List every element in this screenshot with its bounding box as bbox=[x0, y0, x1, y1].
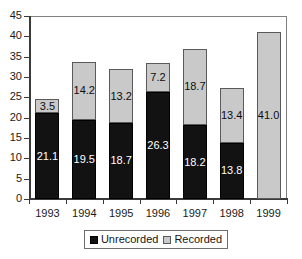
bar-segment-unrecorded[interactable]: 21.1 bbox=[35, 113, 59, 199]
legend-item-unrecorded[interactable]: Unrecorded bbox=[90, 234, 158, 245]
x-axis-label: 1998 bbox=[212, 207, 252, 219]
bars-layer: 21.13.519.514.218.713.226.37.218.218.713… bbox=[29, 16, 287, 199]
bar-value-label: 13.8 bbox=[221, 165, 242, 176]
bar-value-label: 26.3 bbox=[147, 140, 168, 151]
bar-value-label: 21.1 bbox=[37, 151, 58, 162]
x-axis-tick bbox=[287, 199, 288, 204]
x-axis-label: 1999 bbox=[249, 207, 289, 219]
x-axis-label: 1995 bbox=[101, 207, 141, 219]
y-axis-label: 35 bbox=[2, 51, 22, 62]
stacked-bar-chart: 051015202530354045 21.13.519.514.218.713… bbox=[0, 0, 302, 259]
y-axis-label: 5 bbox=[2, 173, 22, 184]
x-axis-tick bbox=[250, 199, 251, 204]
x-axis-tick bbox=[140, 199, 141, 204]
y-axis-label: 20 bbox=[2, 112, 22, 123]
bar-segment-recorded[interactable]: 13.2 bbox=[109, 69, 133, 123]
x-axis-tick bbox=[66, 199, 67, 204]
legend-swatch-recorded-icon bbox=[163, 236, 171, 244]
x-axis-tick bbox=[213, 199, 214, 204]
bar-segment-unrecorded[interactable]: 18.7 bbox=[109, 123, 133, 199]
bar-value-label: 41.0 bbox=[258, 110, 279, 121]
bar-value-label: 19.5 bbox=[74, 154, 95, 165]
bar-value-label: 14.2 bbox=[74, 85, 95, 96]
bar-segment-unrecorded[interactable]: 18.2 bbox=[183, 125, 207, 199]
x-axis-label: 1994 bbox=[64, 207, 104, 219]
y-axis-label: 25 bbox=[2, 91, 22, 102]
bar-segment-recorded[interactable]: 18.7 bbox=[183, 49, 207, 125]
y-axis-label: 45 bbox=[2, 10, 22, 21]
bar-segment-unrecorded[interactable]: 26.3 bbox=[146, 92, 170, 199]
bar-value-label: 18.2 bbox=[184, 157, 205, 168]
y-axis-label: 15 bbox=[2, 132, 22, 143]
bar-value-label: 18.7 bbox=[184, 81, 205, 92]
bar-segment-recorded[interactable]: 14.2 bbox=[72, 62, 96, 120]
bar-value-label: 13.4 bbox=[221, 110, 242, 121]
x-axis-label: 1997 bbox=[175, 207, 215, 219]
chart-legend: Unrecorded Recorded bbox=[84, 230, 228, 249]
x-axis-tick bbox=[29, 199, 30, 204]
bar-segment-recorded[interactable]: 13.4 bbox=[220, 88, 244, 142]
x-axis-label: 1996 bbox=[138, 207, 178, 219]
bar-value-label: 7.2 bbox=[150, 72, 165, 83]
legend-swatch-unrecorded-icon bbox=[90, 236, 98, 244]
x-axis-tick bbox=[103, 199, 104, 204]
legend-label-recorded: Recorded bbox=[174, 234, 222, 245]
y-axis-label: 30 bbox=[2, 71, 22, 82]
bar-segment-recorded[interactable]: 41.0 bbox=[257, 32, 281, 199]
x-axis-label: 1993 bbox=[27, 207, 67, 219]
bar-value-label: 3.5 bbox=[40, 101, 55, 112]
legend-label-unrecorded: Unrecorded bbox=[101, 234, 158, 245]
y-axis-label: 10 bbox=[2, 152, 22, 163]
bar-segment-unrecorded[interactable]: 19.5 bbox=[72, 120, 96, 199]
bar-segment-unrecorded[interactable]: 13.8 bbox=[220, 143, 244, 199]
y-axis-label: 40 bbox=[2, 30, 22, 41]
bar-value-label: 13.2 bbox=[110, 91, 131, 102]
y-axis-label: 0 bbox=[2, 193, 22, 204]
x-axis-tick bbox=[176, 199, 177, 204]
legend-item-recorded[interactable]: Recorded bbox=[163, 234, 222, 245]
bar-segment-recorded[interactable]: 3.5 bbox=[35, 99, 59, 113]
bar-value-label: 18.7 bbox=[110, 155, 131, 166]
bar-segment-recorded[interactable]: 7.2 bbox=[146, 63, 170, 92]
